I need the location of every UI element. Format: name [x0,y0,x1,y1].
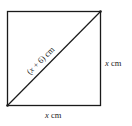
square-diagram: (x + 6) cm x cm x cm [0,0,132,126]
vertex-dot-bottom-left [6,104,9,107]
vertex-dot-top-right [99,10,102,13]
bottom-side-label: x cm [44,110,62,120]
diagonal-line [8,12,101,106]
right-side-label: x cm [104,58,122,68]
